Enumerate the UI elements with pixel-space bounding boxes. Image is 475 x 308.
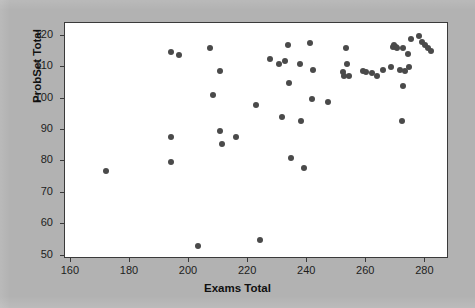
data-point bbox=[307, 40, 313, 46]
data-points-layer bbox=[65, 23, 447, 257]
x-axis-tick-mark bbox=[188, 258, 189, 262]
x-axis-tick-mark bbox=[365, 258, 366, 262]
data-point bbox=[380, 67, 386, 73]
data-point bbox=[301, 165, 307, 171]
data-point bbox=[428, 48, 434, 54]
x-axis-tick-label: 160 bbox=[50, 263, 90, 277]
data-point bbox=[168, 159, 174, 165]
y-axis-tick-label: 80 bbox=[41, 152, 53, 167]
x-axis-tick-label: 240 bbox=[286, 263, 326, 277]
data-point bbox=[217, 128, 223, 134]
x-axis-tick-mark bbox=[306, 258, 307, 262]
y-axis-tick-mark bbox=[60, 160, 64, 161]
data-point bbox=[416, 33, 422, 39]
x-axis-tick-label: 180 bbox=[109, 263, 149, 277]
x-axis-tick-mark bbox=[247, 258, 248, 262]
data-point bbox=[325, 99, 331, 105]
data-point bbox=[406, 64, 412, 70]
y-axis-tick-mark bbox=[60, 223, 64, 224]
data-point bbox=[309, 96, 315, 102]
x-axis-tick-label: 280 bbox=[404, 263, 444, 277]
data-point bbox=[103, 168, 109, 174]
y-axis-tick-mark bbox=[60, 66, 64, 67]
plot-area bbox=[64, 22, 448, 258]
y-axis-title: ProbSet Total bbox=[31, 0, 43, 146]
x-axis-tick-mark bbox=[70, 258, 71, 262]
x-axis-tick-label: 260 bbox=[345, 263, 385, 277]
data-point bbox=[176, 52, 182, 58]
data-point bbox=[195, 243, 201, 249]
x-axis-tick-mark bbox=[424, 258, 425, 262]
data-point bbox=[279, 114, 285, 120]
data-point bbox=[257, 237, 263, 243]
x-axis-title: Exams Total bbox=[0, 282, 475, 294]
data-point bbox=[388, 64, 394, 70]
data-point bbox=[374, 73, 380, 79]
data-point bbox=[168, 134, 174, 140]
data-point bbox=[343, 45, 349, 51]
y-axis-tick-label: 70 bbox=[41, 184, 53, 199]
data-point bbox=[168, 49, 174, 55]
data-point bbox=[282, 58, 288, 64]
y-axis-tick-label: 60 bbox=[41, 215, 53, 230]
y-axis-tick-mark bbox=[60, 98, 64, 99]
data-point bbox=[310, 67, 316, 73]
data-point bbox=[399, 118, 405, 124]
data-point bbox=[408, 36, 414, 42]
data-point bbox=[253, 102, 259, 108]
data-point bbox=[217, 68, 223, 74]
x-axis-tick-label: 220 bbox=[227, 263, 267, 277]
data-point bbox=[219, 141, 225, 147]
scatter-plot-figure: 5060708090100110120 16018020022024026028… bbox=[0, 0, 475, 308]
data-point bbox=[210, 92, 216, 98]
data-point bbox=[405, 51, 411, 57]
x-axis-tick-mark bbox=[129, 258, 130, 262]
data-point bbox=[207, 45, 213, 51]
x-axis-tick-label: 200 bbox=[168, 263, 208, 277]
data-point bbox=[297, 61, 303, 67]
data-point bbox=[298, 118, 304, 124]
y-axis-tick-mark bbox=[60, 129, 64, 130]
data-point bbox=[288, 155, 294, 161]
data-point bbox=[267, 56, 273, 62]
data-point bbox=[400, 45, 406, 51]
data-point bbox=[285, 42, 291, 48]
data-point bbox=[233, 134, 239, 140]
y-axis-tick-mark bbox=[60, 255, 64, 256]
data-point bbox=[346, 73, 352, 79]
data-point bbox=[344, 61, 350, 67]
y-axis-tick-mark bbox=[60, 192, 64, 193]
data-point bbox=[400, 83, 406, 89]
y-axis-tick-mark bbox=[60, 35, 64, 36]
data-point bbox=[286, 80, 292, 86]
y-axis-tick-label: 50 bbox=[41, 247, 53, 262]
